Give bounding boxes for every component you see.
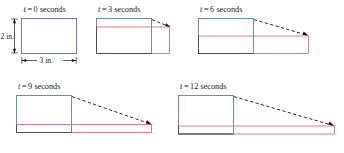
panel-t12-overlap-edge: [179, 126, 234, 134]
panel-t12-transformed-rectangle: [179, 126, 335, 134]
panel-t0-label-equals: =: [27, 5, 32, 14]
panel-t12-label-units: seconds: [200, 82, 226, 91]
panel-t6-label: t=6seconds: [200, 5, 242, 14]
panel-t3-original-rectangle: [97, 19, 152, 54]
panel-t6-trace-line: [254, 20, 306, 35]
panel-t0-label-value: 0: [34, 5, 38, 14]
figure-root: t=0seconds 2 in. 3 in. t=3seconds: [0, 0, 344, 153]
panel-t0-label: t=0seconds: [24, 5, 66, 14]
panel-t3-label-equals: =: [102, 5, 107, 14]
panel-t9-original-rectangle: [17, 96, 72, 133]
panel-t6-label-value: 6: [210, 5, 214, 14]
panel-t9-trace-arrowhead: [146, 120, 152, 124]
panel-t3-trace-arrowhead: [165, 23, 171, 27]
panel-t0: t=0seconds 2 in. 3 in.: [1, 5, 77, 66]
panel-t3-label-value: 3: [108, 5, 112, 14]
panel-t9-transformed-rectangle: [17, 125, 152, 133]
panel-t0-width-dimension: 3 in.: [22, 56, 76, 66]
panel-t3-overlap-edge: [97, 27, 152, 54]
panel-t0-height-label: 2 in.: [1, 32, 15, 41]
panel-t0-original-rectangle: [22, 19, 77, 54]
panel-t6-trace-arrowhead: [302, 32, 308, 36]
panel-t12-original-rectangle: [179, 96, 234, 135]
panel-t6-label-variable: t: [200, 5, 203, 14]
panel-t3: t=3seconds: [97, 5, 171, 54]
panel-t12-label-variable: t: [180, 82, 183, 91]
panel-t9-label-units: seconds: [34, 82, 60, 91]
panel-t3-label: t=3seconds: [98, 5, 140, 14]
panel-t9-label: t=9seconds: [18, 82, 60, 91]
panel-t12-label: t=12seconds: [180, 82, 226, 91]
panel-t0-height-dimension: 2 in.: [1, 19, 18, 53]
panel-t9-label-variable: t: [18, 82, 21, 91]
rectangle-transformation-diagram: t=0seconds 2 in. 3 in. t=3seconds: [0, 0, 344, 153]
panel-t9: t=9seconds: [17, 82, 152, 133]
panel-t12-label-value: 12: [190, 82, 198, 91]
panel-t3-label-units: seconds: [114, 5, 140, 14]
panel-t6-label-equals: =: [204, 5, 209, 14]
panel-t3-transformed-rectangle: [97, 27, 170, 54]
panel-t12: t=12seconds: [179, 82, 335, 135]
panel-t9-label-equals: =: [22, 82, 27, 91]
panel-t0-width-label: 3 in.: [40, 56, 54, 65]
panel-t6-overlap-edge: [199, 36, 254, 54]
panel-t3-label-variable: t: [98, 5, 101, 14]
panel-t6: t=6seconds: [199, 5, 309, 54]
panel-t0-transformed-rectangle: [22, 19, 77, 54]
panel-t6-label-units: seconds: [216, 5, 242, 14]
panel-t0-label-units: seconds: [40, 5, 66, 14]
panel-t9-overlap-edge: [17, 125, 72, 133]
panel-t12-trace-line: [234, 97, 332, 125]
panel-t9-trace-line: [72, 97, 149, 124]
panel-t0-label-variable: t: [24, 5, 27, 14]
panel-t12-label-equals: =: [184, 82, 189, 91]
panel-t9-label-value: 9: [28, 82, 32, 91]
